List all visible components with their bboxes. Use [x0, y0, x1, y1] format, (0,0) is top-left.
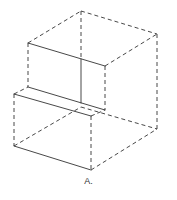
isometric-step-block-diagram [0, 0, 177, 200]
solid-edge [28, 87, 105, 110]
solid-edge [28, 43, 105, 66]
dashed-edge [14, 107, 81, 146]
dashed-edge [14, 87, 28, 94]
figure-caption: A. [0, 176, 177, 186]
dashed-edge [81, 107, 157, 129]
hidden-dashed-edges [14, 11, 157, 170]
dashed-edge [105, 34, 157, 66]
solid-edge [14, 146, 91, 170]
solid-edges [14, 43, 105, 170]
dashed-edge [28, 11, 81, 43]
solid-edge [14, 94, 91, 116]
dashed-edge [81, 11, 157, 34]
dashed-edge [91, 129, 157, 170]
